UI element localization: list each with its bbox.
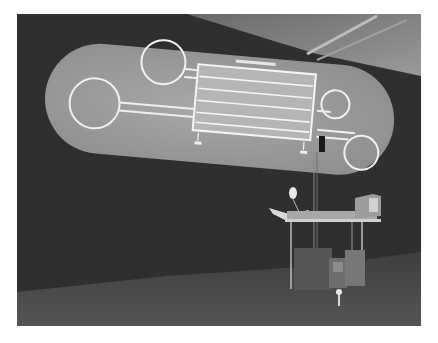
speaker (319, 136, 325, 152)
lamp (289, 187, 297, 199)
equipment-case (294, 248, 332, 290)
installation-photo (17, 14, 421, 326)
